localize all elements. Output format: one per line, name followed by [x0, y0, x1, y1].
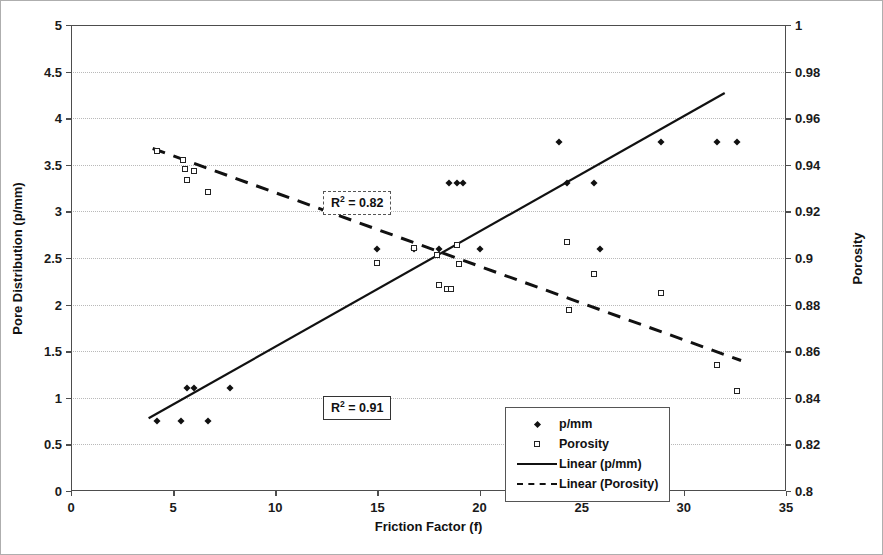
dashed-line-icon — [515, 483, 559, 485]
y2-tick — [786, 351, 791, 352]
y2-tick — [786, 165, 791, 166]
x-tick — [275, 491, 276, 496]
y-tick-label-right: 0.86 — [795, 344, 820, 359]
y-tick-label-right: 0.9 — [795, 251, 813, 266]
legend-label-porosity: Porosity — [559, 437, 609, 451]
data-point-porosity — [180, 157, 186, 163]
x-tick — [684, 491, 685, 496]
y2-tick — [786, 398, 791, 399]
data-point-porosity — [714, 362, 720, 368]
legend-item-pmm: p/mm — [515, 414, 658, 434]
legend-label-linear-pmm: Linear (p/mm) — [559, 457, 642, 471]
data-point-porosity — [154, 148, 160, 154]
y-tick-label-left: 2 — [55, 297, 62, 312]
x-tick — [377, 491, 378, 496]
diamond-marker-icon — [515, 422, 559, 427]
data-point-porosity — [205, 189, 211, 195]
y-tick-label-left: 1 — [55, 390, 62, 405]
chart-legend: p/mm Porosity Linear (p/mm) Linear (Poro… — [505, 407, 670, 502]
legend-label-pmm: p/mm — [559, 417, 592, 431]
chart-frame: Pore Distribution (p/mm) Porosity Fricti… — [0, 0, 883, 555]
y-tick-label-left: 3 — [55, 204, 62, 219]
data-point-porosity — [411, 245, 417, 251]
data-point-porosity — [436, 282, 442, 288]
x-tick-label: 30 — [677, 500, 691, 515]
y2-tick — [786, 118, 791, 119]
y-tick-label-left: 2.5 — [44, 251, 62, 266]
data-point-porosity — [182, 166, 188, 172]
x-tick-label: 0 — [67, 500, 74, 515]
data-point-porosity — [454, 242, 460, 248]
y2-tick — [786, 72, 791, 73]
legend-label-linear-porosity: Linear (Porosity) — [559, 477, 658, 491]
y-tick-label-right: 0.84 — [795, 390, 820, 405]
legend-item-linear-porosity: Linear (Porosity) — [515, 474, 658, 494]
data-point-porosity — [564, 239, 570, 245]
x-axis-title: Friction Factor (f) — [71, 519, 786, 534]
data-point-porosity — [434, 252, 440, 258]
data-point-porosity — [448, 286, 454, 292]
x-tick — [173, 491, 174, 496]
y-tick-label-right: 0.88 — [795, 297, 820, 312]
y2-tick — [786, 211, 791, 212]
y-tick-label-right: 0.96 — [795, 111, 820, 126]
y-tick-label-right: 0.92 — [795, 204, 820, 219]
y-axis-title-left-text: Pore Distribution (p/mm) — [10, 182, 25, 334]
square-marker-icon — [515, 441, 559, 447]
y-tick-label-right: 0.8 — [795, 484, 813, 499]
legend-item-linear-pmm: Linear (p/mm) — [515, 454, 658, 474]
solid-line-icon — [515, 463, 559, 465]
y-axis-title-right-text: Porosity — [850, 232, 865, 284]
y-tick-label-right: 0.82 — [795, 437, 820, 452]
legend-item-porosity: Porosity — [515, 434, 658, 454]
data-point-porosity — [591, 271, 597, 277]
data-point-porosity — [374, 260, 380, 266]
x-tick-label: 20 — [472, 500, 486, 515]
y-axis-title-left: Pore Distribution (p/mm) — [7, 25, 27, 491]
y2-tick — [786, 305, 791, 306]
r2-annotation-porosity: R2 = 0.82 — [323, 191, 391, 215]
x-tick-label: 10 — [268, 500, 282, 515]
y-tick-label-left: 4 — [55, 111, 62, 126]
y-tick-label-left: 5 — [55, 18, 62, 33]
x-tick-label: 5 — [170, 500, 177, 515]
plot-area: R2 = 0.82 R2 = 0.91 p/mm Porosity Linear… — [71, 25, 786, 491]
y-axis-title-right: Porosity — [847, 25, 867, 491]
data-point-porosity — [658, 290, 664, 296]
y2-tick — [786, 444, 791, 445]
data-point-porosity — [184, 177, 190, 183]
x-tick — [480, 491, 481, 496]
y-tick-label-left: 4.5 — [44, 64, 62, 79]
x-tick-label: 15 — [370, 500, 384, 515]
data-point-porosity — [191, 168, 197, 174]
y2-tick — [786, 258, 791, 259]
y-tick-label-right: 0.94 — [795, 157, 820, 172]
y-tick-label-left: 1.5 — [44, 344, 62, 359]
y2-tick — [786, 25, 791, 26]
y-tick-label-left: 3.5 — [44, 157, 62, 172]
y-tick-label-left: 0.5 — [44, 437, 62, 452]
y-tick-label-left: 0 — [55, 484, 62, 499]
x-tick — [786, 491, 787, 496]
data-point-porosity — [456, 261, 462, 267]
x-tick-label: 35 — [779, 500, 793, 515]
y-tick-label-right: 1 — [795, 18, 802, 33]
x-tick — [71, 491, 72, 496]
x-tick-label: 25 — [574, 500, 588, 515]
y-tick-label-right: 0.98 — [795, 64, 820, 79]
r2-annotation-pmm: R2 = 0.91 — [323, 396, 391, 420]
data-point-porosity — [566, 307, 572, 313]
data-point-porosity — [734, 388, 740, 394]
